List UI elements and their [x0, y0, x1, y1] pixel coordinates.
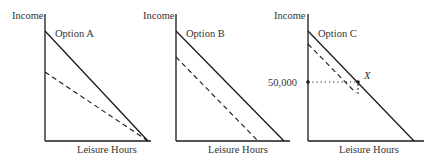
option-label-c: Option C	[318, 28, 357, 39]
option-label-a: Option A	[55, 28, 94, 39]
y-axis-label-a: Income	[12, 10, 44, 21]
point-label-x: X	[363, 70, 371, 81]
option-label-b: Option B	[186, 28, 225, 39]
budget-line-dashed-a	[45, 72, 148, 141]
budget-line-solid-a	[45, 31, 148, 141]
tick-dot-50000	[306, 80, 310, 84]
panel-option-a: Income Option A Leisure Hours	[12, 10, 151, 155]
budget-line-dashed-c	[308, 44, 356, 93]
panel-option-c: Income 50,000 X Option C Leisure Hours	[268, 10, 424, 155]
y-axis-label-c: Income	[274, 10, 306, 21]
x-axis-label-c: Leisure Hours	[339, 144, 399, 155]
point-x	[356, 80, 360, 84]
y-axis-label-b: Income	[143, 10, 175, 21]
x-axis-label-a: Leisure Hours	[77, 144, 137, 155]
x-axis-label-b: Leisure Hours	[208, 144, 268, 155]
budget-constraint-diagram: Income Option A Leisure Hours Income Opt…	[0, 0, 441, 168]
tick-label-50000: 50,000	[268, 77, 297, 88]
budget-line-solid-c	[308, 31, 414, 141]
budget-line-dashed-b	[176, 57, 258, 141]
